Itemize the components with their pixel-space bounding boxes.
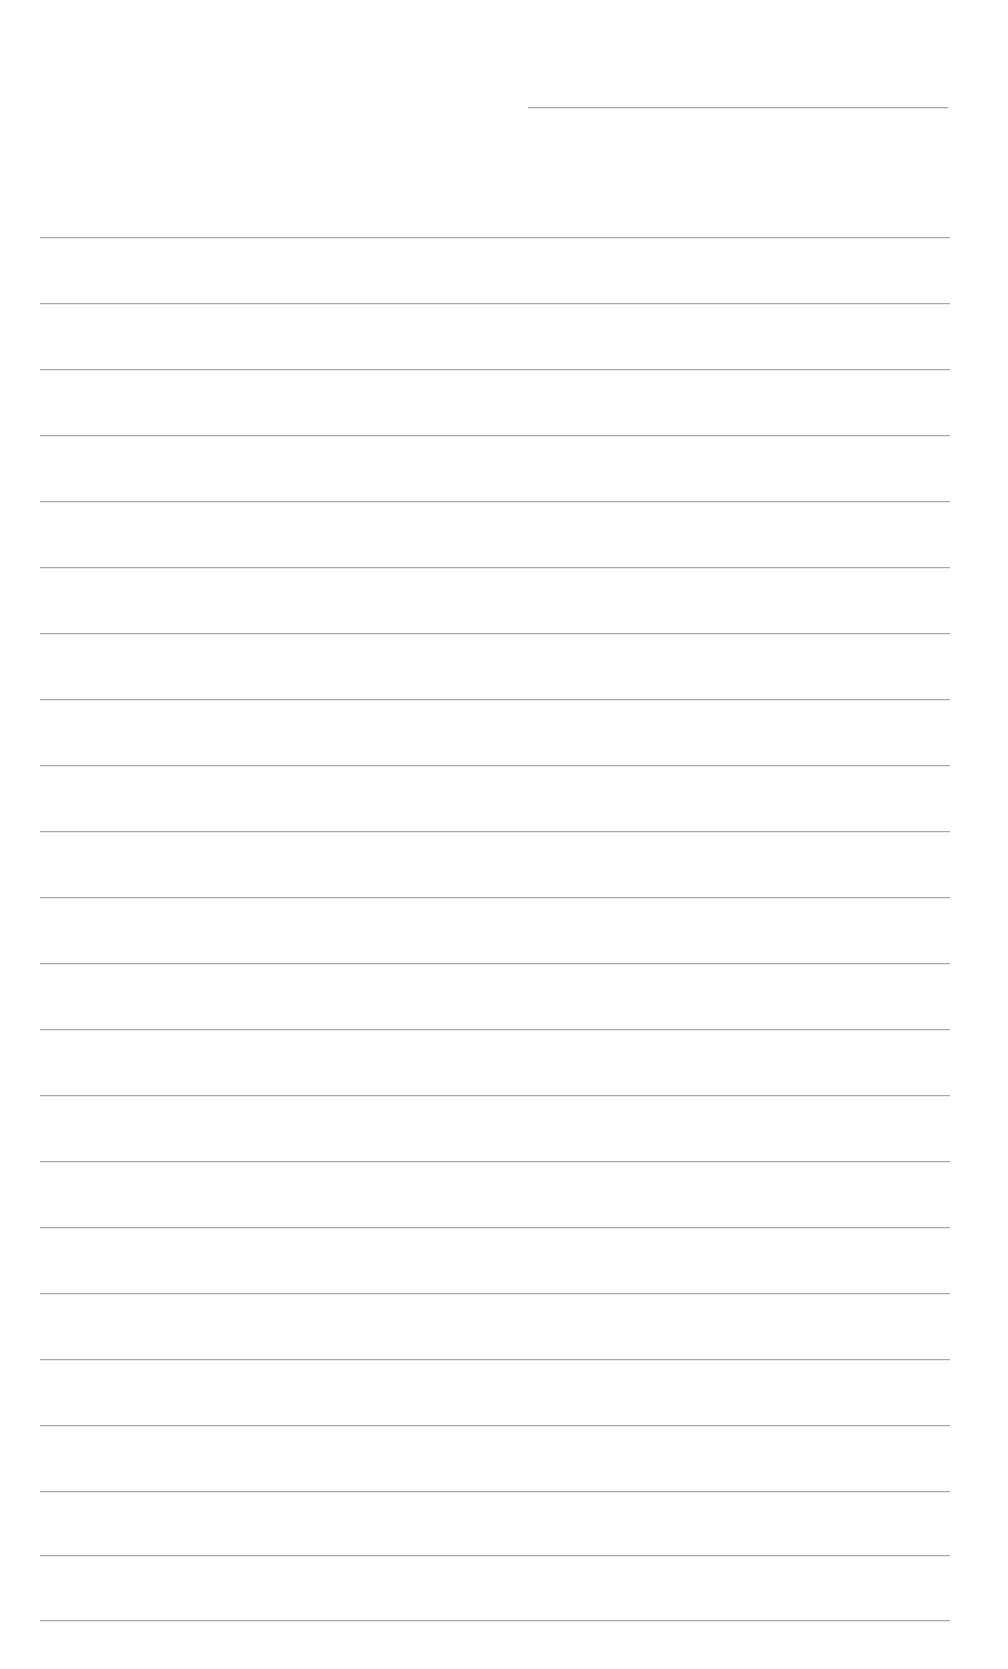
ruled-line (40, 897, 950, 898)
ruled-line (40, 1161, 950, 1162)
ruled-line (40, 1359, 950, 1360)
ruled-line (40, 1227, 950, 1228)
ruled-line (40, 303, 950, 304)
ruled-line (40, 1620, 950, 1621)
ruled-line (40, 633, 950, 634)
ruled-line (40, 1293, 950, 1294)
lined-page (0, 0, 1008, 1669)
ruled-line (40, 1555, 950, 1556)
ruled-line (40, 369, 950, 370)
ruled-line (40, 831, 950, 832)
ruled-line (40, 1095, 950, 1096)
ruled-line (40, 1491, 950, 1492)
ruled-line (40, 963, 950, 964)
ruled-line (40, 501, 950, 502)
ruled-line (40, 567, 950, 568)
ruled-line (40, 1425, 950, 1426)
ruled-line (40, 1029, 950, 1030)
ruled-line (40, 699, 950, 700)
ruled-line (40, 237, 950, 238)
ruled-line (40, 435, 950, 436)
ruled-line (40, 765, 950, 766)
header-line (528, 107, 948, 108)
